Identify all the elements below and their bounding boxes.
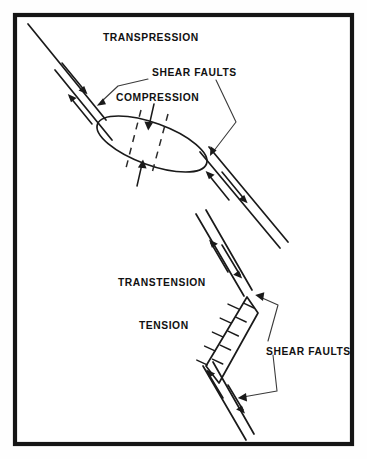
geology-diagram-svg: TRANSPRESSION SHEAR FAULTS COMPRESSION	[0, 0, 367, 459]
label-shear-faults-lower: SHEAR FAULTS	[266, 346, 351, 357]
label-shear-faults-upper: SHEAR FAULTS	[152, 67, 237, 78]
label-transpression: TRANSPRESSION	[103, 32, 199, 43]
label-tension: TENSION	[139, 320, 189, 331]
label-compression: COMPRESSION	[116, 92, 199, 103]
diagram-border-frame	[15, 15, 352, 444]
figure-root: TRANSPRESSION SHEAR FAULTS COMPRESSION	[0, 0, 367, 459]
label-transtension: TRANSTENSION	[118, 277, 206, 288]
